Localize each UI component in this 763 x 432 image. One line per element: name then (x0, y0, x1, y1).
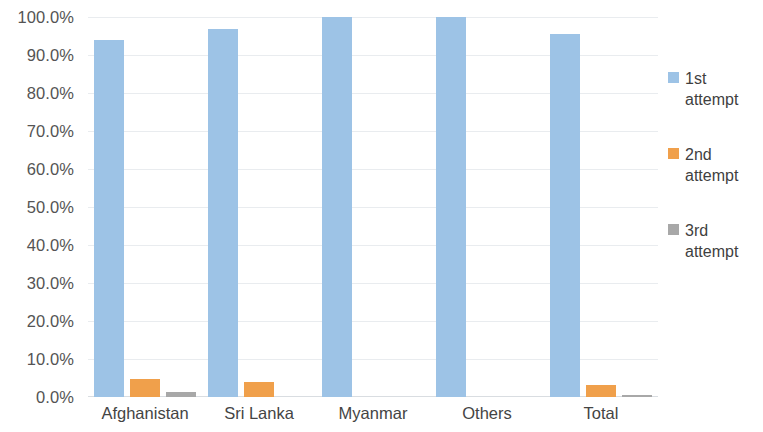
legend-label: 3rdattempt (685, 222, 763, 262)
bar[interactable] (322, 17, 352, 397)
x-axis-tick-label: Others (462, 404, 512, 423)
bar-group (88, 17, 202, 397)
legend-swatch-icon (668, 72, 679, 83)
bar-group (202, 17, 316, 397)
y-axis-tick-label: 100.0% (17, 8, 74, 27)
x-axis-tick-label: Total (584, 404, 619, 423)
legend-label-line1: 1st (685, 70, 706, 87)
legend-label-line2: attempt (685, 241, 763, 262)
bar-chart: 100.0%90.0%80.0%70.0%60.0%50.0%40.0%30.0… (0, 0, 763, 432)
y-axis-tick-label: 10.0% (27, 350, 74, 369)
y-axis-tick-label: 30.0% (27, 274, 74, 293)
legend-label-line1: 3rd (685, 222, 708, 239)
legend-label-line1: 2nd (685, 146, 712, 163)
y-axis-tick-label: 50.0% (27, 198, 74, 217)
legend-entry[interactable]: 1stattempt (668, 68, 763, 110)
bar[interactable] (208, 29, 238, 397)
bar[interactable] (94, 40, 124, 397)
bar-group (544, 17, 658, 397)
x-axis-tick-label: Afghanistan (101, 404, 188, 423)
bar-group-bars (88, 17, 202, 397)
legend-entry[interactable]: 3rdattempt (668, 220, 763, 262)
legend-label: 2ndattempt (685, 146, 763, 186)
bar-group (430, 17, 544, 397)
legend-swatch-icon (668, 148, 679, 159)
bar[interactable] (622, 395, 652, 397)
bar[interactable] (244, 382, 274, 397)
legend-label: 1stattempt (685, 70, 763, 110)
legend: 1stattempt2ndattempt3rdattempt (668, 68, 763, 296)
bar[interactable] (550, 34, 580, 397)
y-axis-tick-label: 40.0% (27, 236, 74, 255)
bar-group-bars (544, 17, 658, 397)
x-axis-tick-label: Sri Lanka (224, 404, 294, 423)
bar[interactable] (130, 379, 160, 397)
y-axis-tick-label: 70.0% (27, 122, 74, 141)
legend-label-line2: attempt (685, 165, 763, 186)
y-axis: 100.0%90.0%80.0%70.0%60.0%50.0%40.0%30.0… (0, 0, 82, 432)
bar[interactable] (166, 392, 196, 397)
y-axis-tick-label: 0.0% (36, 388, 74, 407)
bar-group-bars (430, 17, 544, 397)
bar[interactable] (586, 385, 616, 397)
x-axis-labels: AfghanistanSri LankaMyanmarOthersTotal (88, 400, 658, 432)
y-axis-tick-label: 80.0% (27, 84, 74, 103)
x-axis-tick-label: Myanmar (339, 404, 408, 423)
y-axis-tick-label: 60.0% (27, 160, 74, 179)
y-axis-tick-label: 90.0% (27, 46, 74, 65)
legend-label-line2: attempt (685, 89, 763, 110)
bar[interactable] (436, 17, 466, 397)
bar-group-bars (316, 17, 430, 397)
legend-swatch-icon (668, 224, 679, 235)
bar-group-bars (202, 17, 316, 397)
y-axis-tick-label: 20.0% (27, 312, 74, 331)
plot-area (88, 17, 658, 397)
legend-entry[interactable]: 2ndattempt (668, 144, 763, 186)
bar-group (316, 17, 430, 397)
